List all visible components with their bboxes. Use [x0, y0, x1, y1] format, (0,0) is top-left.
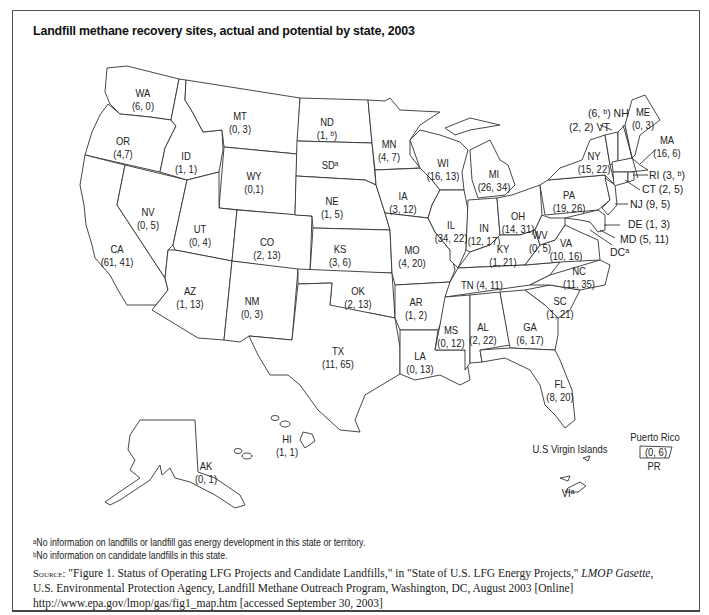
state-CT [613, 172, 628, 186]
label-sc: SC(1, 21) [546, 295, 573, 321]
footnote-b: ᵇNo information on candidate landfills i… [33, 550, 228, 561]
label-la: LA(0, 13) [406, 350, 433, 376]
label-mt: MT(0, 3) [229, 110, 251, 136]
label-tn: TN (4, 11) [461, 279, 503, 292]
label-pr-title: Puerto Rico [630, 431, 679, 444]
label-ia: IA(3, 12) [389, 190, 416, 216]
label-ca: CA(61, 41) [101, 243, 134, 269]
label-de: DE (1, 3) [628, 218, 670, 231]
state-HI [300, 432, 315, 448]
label-wa: WA(6, 0) [132, 87, 154, 113]
label-ne: NE(1, 5) [321, 195, 343, 221]
label-nj: NJ (9, 5) [630, 198, 670, 211]
label-id: ID(1, 1) [175, 150, 197, 176]
label-nh: (6, ᵇ) NH [588, 107, 629, 120]
source-label: Source: [33, 568, 65, 579]
label-md: MD (5, 11) [620, 233, 669, 246]
label-il: IL(34, 22) [435, 219, 468, 245]
label-wv: WV(0, 5) [529, 229, 551, 255]
label-nv: NV(0, 5) [137, 206, 159, 232]
label-nm: NM(0, 3) [241, 295, 263, 321]
label-co: CO(2, 13) [253, 236, 280, 262]
hi-island-1 [234, 449, 242, 454]
label-tx: TX(11, 65) [322, 345, 354, 371]
hi-island-3 [271, 416, 279, 421]
label-vi-code: VIᵃ [562, 487, 574, 500]
leader-line-md [600, 230, 615, 238]
label-vi-title: U.S Virgin Islands [533, 443, 608, 456]
label-mi: MI(26, 34) [478, 168, 511, 194]
state-RI [628, 172, 634, 182]
label-fl: FL(8, 20) [546, 378, 573, 404]
label-ks: KS(3, 6) [329, 243, 351, 269]
footnote-a: ᵃNo information on landfills or landfill… [33, 537, 365, 548]
label-ms: MS(0, 12) [437, 324, 464, 350]
label-nd: ND(1, ᵇ) [317, 116, 337, 142]
label-ut: UT(0, 4) [189, 223, 211, 249]
label-az: AZ(1, 13) [176, 285, 203, 311]
state-AK [105, 420, 245, 508]
label-ky: KY(1, 21) [489, 243, 516, 269]
label-vt: (2, 2) VT [569, 121, 610, 134]
label-nc: NC(11, 35) [563, 265, 595, 291]
label-ak: AK(0, 1) [195, 460, 217, 486]
label-ny: NY(15, 22) [578, 150, 611, 176]
label-ar: AR(1, 2) [405, 296, 427, 322]
source-publication: LMOP Gasette [581, 567, 650, 579]
label-sd: SDᵃ [322, 159, 339, 172]
label-ma: MA(16, 6) [653, 134, 680, 160]
label-al: AL(2, 22) [469, 321, 496, 347]
label-ok: OK(2, 13) [344, 285, 371, 311]
label-wy: WY(0,1) [244, 170, 263, 196]
label-va: VA(10, 16) [550, 237, 583, 263]
label-ct: CT (2, 5) [642, 183, 683, 196]
label-dc: DCᵃ [610, 246, 629, 259]
label-ga: GA(6, 17) [516, 321, 543, 347]
label-pr-code: PR [647, 460, 660, 473]
label-wi: WI(16, 13) [427, 157, 460, 183]
label-mn: MN(4, 7) [378, 138, 400, 164]
label-pr-value: (0, 6) [645, 446, 667, 459]
source-citation: Source: "Figure 1. Status of Operating L… [33, 566, 673, 611]
label-hi: HI(1, 1) [276, 433, 298, 459]
label-ri: RI (3, ᵇ) [649, 169, 685, 182]
label-mo: MO(4, 20) [398, 244, 425, 270]
label-pa: PA(19, 26) [553, 189, 586, 215]
hi-island-4 [280, 421, 290, 427]
leader-line-ct [625, 180, 640, 190]
label-or: OR(4,7) [113, 135, 132, 161]
label-me: ME(0, 3) [632, 106, 654, 132]
hi-island-2 [242, 453, 252, 459]
